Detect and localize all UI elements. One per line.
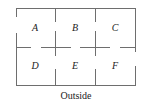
room-label-e: E <box>71 60 78 71</box>
room-label-b: B <box>72 22 78 33</box>
outer-walls <box>16 8 136 86</box>
room-label-a: A <box>31 22 39 33</box>
room-label-f: F <box>111 60 119 71</box>
floor-plan-diagram: A B C D E F Outside <box>0 0 147 103</box>
room-label-d: D <box>30 60 39 71</box>
room-labels: A B C D E F <box>30 22 119 71</box>
outside-caption: Outside <box>60 90 92 101</box>
room-label-c: C <box>112 22 119 33</box>
